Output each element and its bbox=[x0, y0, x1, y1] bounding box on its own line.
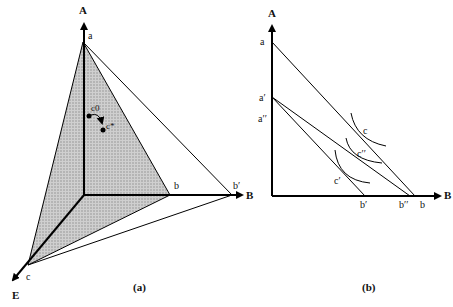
point-label-cprime: c′ bbox=[334, 176, 341, 186]
axis-label-B-b: B bbox=[444, 190, 451, 201]
point-label-c-b: c bbox=[363, 126, 367, 136]
diagram-canvas bbox=[0, 0, 453, 307]
point-label-cstar: c* bbox=[106, 122, 115, 131]
indiff-c bbox=[351, 113, 386, 146]
panel-a bbox=[13, 24, 242, 280]
point-label-b: b bbox=[174, 181, 179, 191]
point-c0 bbox=[87, 114, 92, 119]
point-label-adprime: a′′ bbox=[258, 114, 267, 124]
shaded-plane bbox=[28, 42, 170, 265]
panel-b bbox=[272, 26, 440, 196]
point-label-c: c bbox=[26, 272, 30, 282]
budget-aprime-bprime bbox=[272, 97, 365, 196]
point-label-b-b: b bbox=[420, 200, 425, 210]
point-label-a: a bbox=[88, 31, 92, 41]
point-label-bprime: b′ bbox=[233, 181, 240, 191]
point-label-a-b: a bbox=[260, 37, 264, 47]
point-cstar bbox=[101, 128, 106, 133]
caption-b: (b) bbox=[362, 282, 375, 293]
axis-label-E: E bbox=[12, 290, 19, 301]
point-label-aprime: a′ bbox=[259, 93, 266, 103]
axis-label-A: A bbox=[79, 5, 87, 16]
point-label-cdprime: c′′ bbox=[357, 149, 366, 159]
axis-label-A-b: A bbox=[268, 8, 276, 19]
caption-a: (a) bbox=[133, 282, 146, 293]
budget-aprime-bdprime bbox=[272, 97, 410, 196]
point-label-c0: c0 bbox=[91, 104, 100, 113]
point-label-bprime-b: b′ bbox=[360, 200, 367, 210]
point-label-bdprime: b′′ bbox=[399, 200, 408, 210]
axis-label-B: B bbox=[246, 190, 253, 201]
